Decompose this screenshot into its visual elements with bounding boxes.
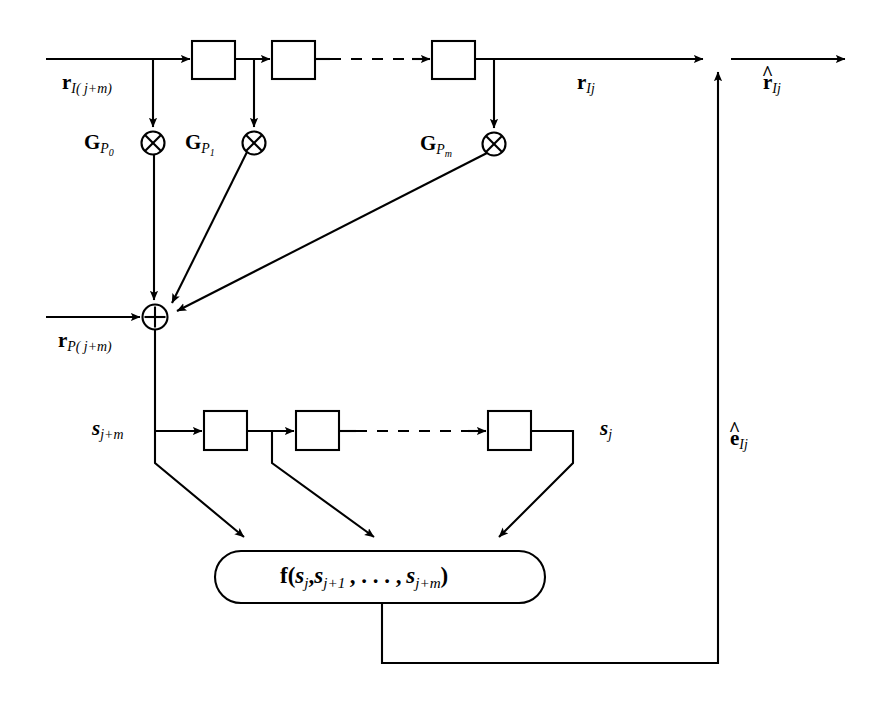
multiplier-m bbox=[483, 133, 506, 156]
label-r-ij: rIj bbox=[577, 72, 595, 96]
bottom-delay-box-2 bbox=[296, 411, 339, 450]
label-gain-m: GPm bbox=[420, 133, 452, 160]
top-delay-box-3 bbox=[432, 41, 475, 79]
label-r-p: rP( j+m) bbox=[58, 330, 112, 354]
figure-canvas: rI( j+m) GP0 GP1 GPm rIj ^rIj rP( j+m) s… bbox=[0, 0, 889, 703]
multiplier-1 bbox=[243, 132, 266, 155]
diagram-svg bbox=[0, 0, 889, 703]
label-s-j: sj bbox=[600, 418, 612, 442]
label-input-r: rI( j+m) bbox=[62, 72, 112, 96]
label-gain-0: GP0 bbox=[84, 132, 114, 159]
multiplier-output-lines bbox=[154, 152, 487, 311]
label-r-hat-ij: ^rIj bbox=[763, 72, 781, 96]
tap-lines bbox=[153, 59, 494, 128]
top-delay-box-1 bbox=[192, 41, 235, 79]
top-delay-box-2 bbox=[272, 41, 315, 79]
adder-middle bbox=[143, 305, 168, 330]
bottom-delay-box-3 bbox=[488, 411, 531, 450]
bottom-delay-box-1 bbox=[204, 411, 247, 450]
multiplier-0 bbox=[142, 132, 165, 155]
label-s-jm: sj+m bbox=[92, 418, 123, 442]
label-e-hat-ij: ^eIj bbox=[730, 428, 748, 452]
function-expression: f(sj,sj+1 , . . . , sj+m) bbox=[280, 564, 448, 590]
register-taps bbox=[155, 431, 573, 537]
label-gain-1: GP1 bbox=[185, 132, 215, 159]
